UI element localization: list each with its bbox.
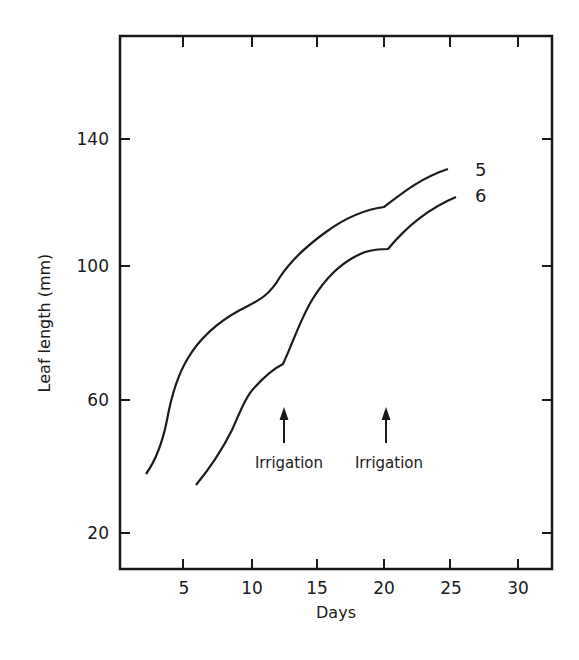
x-ticks-top	[183, 36, 518, 47]
arrow-up-icon	[382, 407, 391, 420]
y-tick-labels: 20 60 100 140	[77, 129, 109, 543]
x-axis-title: Days	[316, 603, 356, 622]
leaf-length-chart: 5 10 15 20 25 30 20 60 100 140 Days Leaf…	[0, 0, 579, 660]
series-5-line	[146, 169, 448, 474]
series-6-label: 6	[475, 185, 486, 206]
x-tick-label: 10	[241, 578, 263, 598]
y-tick-label: 60	[87, 390, 109, 410]
x-tick-label: 25	[440, 578, 462, 598]
arrow-up-icon	[280, 407, 289, 420]
irrigation-label-2: Irrigation	[355, 454, 423, 472]
irrigation-label-1: Irrigation	[255, 454, 323, 472]
x-tick-labels: 5 10 15 20 25 30	[179, 578, 529, 598]
x-tick-label: 15	[306, 578, 328, 598]
y-axis-title: Leaf length (mm)	[35, 254, 54, 393]
y-tick-label: 140	[77, 129, 109, 149]
series-6-line	[196, 197, 456, 485]
y-tick-label: 100	[77, 256, 109, 276]
plot-frame	[120, 36, 552, 569]
series-5-label: 5	[475, 159, 486, 180]
y-ticks-right	[542, 139, 552, 533]
irrigation-arrow-1	[280, 407, 289, 443]
irrigation-arrow-2	[382, 407, 391, 443]
x-tick-label: 5	[179, 578, 190, 598]
y-ticks-left	[120, 139, 130, 533]
x-ticks-bottom	[183, 559, 518, 569]
y-tick-label: 20	[87, 523, 109, 543]
x-tick-label: 20	[373, 578, 395, 598]
x-tick-label: 30	[507, 578, 529, 598]
